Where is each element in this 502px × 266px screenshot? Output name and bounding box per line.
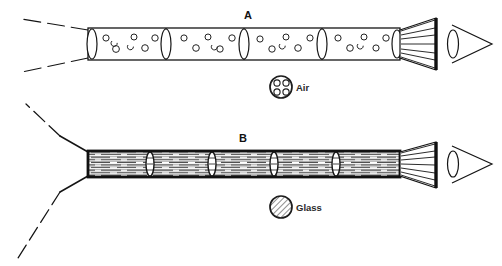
tube-b-hatch-breaks (88, 151, 400, 177)
lens (317, 29, 327, 59)
lens (87, 29, 97, 59)
lens (239, 29, 249, 59)
air-bubble (361, 34, 367, 40)
air-bubble (229, 35, 235, 41)
lens (161, 29, 171, 59)
light-guide-figure: A Air (0, 0, 502, 266)
air-bubble (181, 35, 187, 41)
air-bubble (347, 45, 354, 52)
air-bubble (205, 34, 211, 40)
figure-canvas: A Air (0, 0, 502, 266)
legend-glass-label: Glass (296, 202, 322, 213)
air-bubble (307, 35, 313, 41)
eye-a-lens (448, 30, 459, 58)
diagram-b-label: B (239, 132, 247, 144)
air-bubble (283, 34, 289, 40)
air-bubble (373, 45, 379, 51)
legend-air-label: Air (296, 82, 310, 93)
air-bubble (383, 35, 389, 41)
air-bubble (142, 45, 149, 52)
air-bubble (103, 35, 109, 41)
air-bubble (193, 45, 200, 52)
air-bubble (131, 34, 137, 40)
air-bubble (257, 36, 263, 42)
legend-glass-symbol (270, 196, 292, 218)
air-bubble (269, 46, 275, 52)
eye-b-lens (448, 151, 459, 177)
air-bubble (295, 45, 302, 52)
diagram-a-label: A (244, 9, 252, 21)
air-bubble (335, 35, 341, 41)
air-bubble (152, 35, 158, 41)
legend-air-symbol (270, 76, 292, 98)
